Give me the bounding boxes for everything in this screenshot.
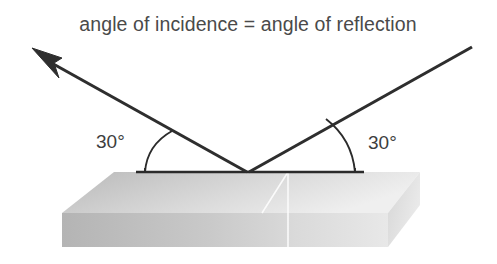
incident-ray [249,47,472,172]
right-angle-label: 30° [368,132,397,153]
reflected-ray [48,61,247,172]
figure-title: angle of incidence = angle of reflection [79,13,416,35]
diagram-canvas: angle of incidence = angle of reflection… [0,0,497,264]
left-angle-label: 30° [96,131,125,152]
left-angle-arc [145,131,172,172]
reflection-diagram-figure: angle of incidence = angle of reflection… [0,0,497,264]
mirror-slab [62,172,420,247]
reflected-ray-arrowhead [32,48,62,78]
slab-top-face [62,172,420,213]
slab-front-face [62,213,388,247]
